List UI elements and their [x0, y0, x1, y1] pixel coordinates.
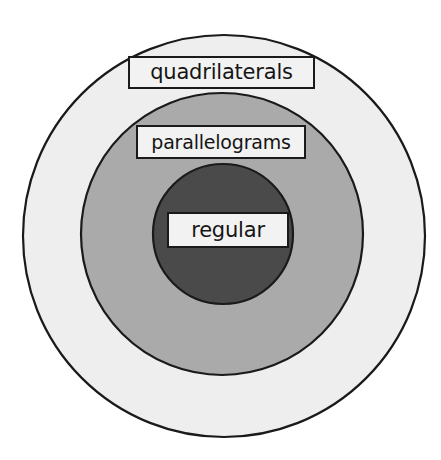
- label-box-quadrilaterals: quadrilaterals: [128, 56, 315, 89]
- label-box-parallelograms: parallelograms: [136, 125, 306, 159]
- venn-diagram: quadrilaterals parallelograms regular: [0, 0, 441, 460]
- label-box-regular: regular: [167, 212, 289, 248]
- label-text-quadrilaterals: quadrilaterals: [150, 62, 293, 83]
- label-text-parallelograms: parallelograms: [151, 133, 290, 152]
- label-text-regular: regular: [191, 220, 265, 241]
